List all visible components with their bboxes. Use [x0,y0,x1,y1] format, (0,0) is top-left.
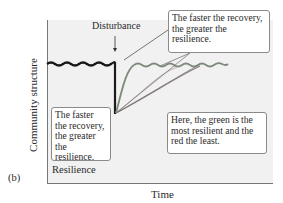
y-axis-label: Community structure [27,58,39,152]
leader-line-top [124,30,168,60]
pink-recovery-curve [116,67,178,113]
callout-top-right: The faster the recovery, the greater the… [168,10,270,53]
leader-line-red [116,53,190,113]
leader-line-mid [118,64,200,112]
callout-bottom-right: Here, the green is the most resilient an… [167,112,267,154]
disturbance-label: Disturbance [92,20,140,31]
green-recovery-curve [116,63,228,113]
callout-left: The faster the recovery, the greater the… [51,107,111,161]
baseline-curve [47,62,116,65]
arrow-head-icon [113,48,117,52]
section-label: Resilience [52,164,96,175]
panel-label: (b) [8,172,20,183]
x-axis-label: Time [151,188,174,200]
